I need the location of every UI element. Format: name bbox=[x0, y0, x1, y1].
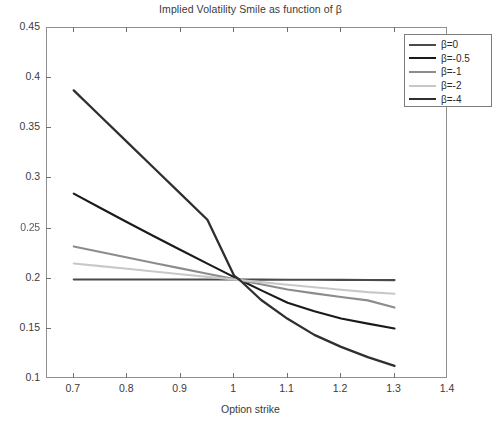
legend-item-label: β=-4 bbox=[441, 94, 461, 105]
x-tick-mark bbox=[394, 27, 395, 32]
legend-item[interactable]: β=-4 bbox=[405, 92, 491, 106]
y-tick-mark bbox=[46, 328, 51, 329]
x-tick-mark bbox=[287, 27, 288, 32]
y-tick-mark bbox=[46, 228, 51, 229]
x-tick-mark bbox=[180, 373, 181, 378]
y-tick-label: 0.2 bbox=[0, 272, 40, 283]
x-tick-label: 1 bbox=[213, 383, 253, 394]
legend-item[interactable]: β=-1 bbox=[405, 65, 491, 79]
legend-item[interactable]: β=0 bbox=[405, 38, 491, 52]
x-tick-mark bbox=[340, 27, 341, 32]
x-tick-mark bbox=[126, 373, 127, 378]
legend-item-label: β=-2 bbox=[441, 80, 461, 91]
x-tick-label: 1.4 bbox=[427, 383, 467, 394]
legend-item-label: β=-0.5 bbox=[441, 53, 470, 64]
x-tick-mark bbox=[73, 373, 74, 378]
x-tick-mark bbox=[394, 373, 395, 378]
x-tick-label: 1.3 bbox=[374, 383, 414, 394]
y-tick-label: 0.45 bbox=[0, 21, 40, 32]
legend-line-swatch bbox=[409, 44, 436, 46]
x-tick-mark bbox=[126, 27, 127, 32]
plot-svg bbox=[47, 28, 448, 379]
page-title: Implied Volatility Smile as function of … bbox=[0, 3, 501, 15]
x-tick-mark bbox=[287, 373, 288, 378]
x-tick-label: 0.9 bbox=[160, 383, 200, 394]
y-tick-label: 0.35 bbox=[0, 121, 40, 132]
y-tick-mark bbox=[46, 77, 51, 78]
y-tick-mark bbox=[46, 278, 51, 279]
x-axis-label: Option strike bbox=[0, 403, 501, 415]
x-tick-mark bbox=[340, 373, 341, 378]
y-tick-label: 0.1 bbox=[0, 372, 40, 383]
series-line bbox=[74, 194, 395, 329]
x-tick-label: 1.1 bbox=[267, 383, 307, 394]
legend-line-swatch bbox=[409, 98, 436, 100]
legend-line-swatch bbox=[409, 85, 436, 87]
series-line bbox=[74, 90, 395, 366]
legend-item-label: β=0 bbox=[441, 39, 458, 50]
x-tick-label: 0.7 bbox=[53, 383, 93, 394]
legend-item[interactable]: β=-0.5 bbox=[405, 52, 491, 66]
y-tick-label: 0.25 bbox=[0, 222, 40, 233]
y-tick-label: 0.3 bbox=[0, 171, 40, 182]
y-tick-label: 0.15 bbox=[0, 322, 40, 333]
legend-item[interactable]: β=-2 bbox=[405, 79, 491, 93]
x-tick-mark bbox=[73, 27, 74, 32]
chart-legend: β=0β=-0.5β=-1β=-2β=-4 bbox=[404, 34, 492, 107]
x-tick-label: 1.2 bbox=[320, 383, 360, 394]
legend-item-label: β=-1 bbox=[441, 66, 461, 77]
legend-line-swatch bbox=[409, 57, 436, 59]
x-tick-mark bbox=[233, 27, 234, 32]
x-tick-mark bbox=[180, 27, 181, 32]
y-tick-label: 0.4 bbox=[0, 71, 40, 82]
legend-line-swatch bbox=[409, 71, 436, 73]
y-tick-mark bbox=[46, 127, 51, 128]
x-tick-label: 0.8 bbox=[106, 383, 146, 394]
y-tick-mark bbox=[46, 177, 51, 178]
x-tick-mark bbox=[233, 373, 234, 378]
plot-area bbox=[46, 27, 447, 378]
figure-canvas: Implied Volatility Smile as function of … bbox=[0, 0, 501, 429]
